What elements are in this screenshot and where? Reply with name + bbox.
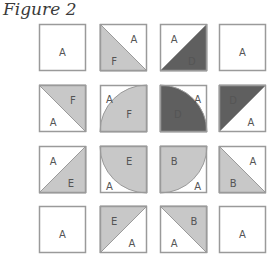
patch-label: A [171, 238, 178, 249]
patch-label: A [50, 156, 57, 167]
quilt-square-r0-c3: A [219, 24, 266, 71]
patch-label: B [190, 216, 197, 227]
patch-label: A [59, 229, 66, 240]
quilt-square-r3-c1: EA [100, 206, 147, 253]
patch-label: E [111, 216, 117, 227]
patch-label: D [174, 109, 182, 120]
patch-label: D [188, 56, 196, 67]
quilt-square-r0-c2: AD [160, 24, 207, 71]
quilt-square-r0-c0: A [39, 24, 86, 71]
quilt-square-r3-c2: BA [160, 206, 207, 253]
patch-label: E [126, 156, 132, 167]
quilt-square-r2-c3: AB [219, 146, 266, 193]
patch-label: A [106, 181, 113, 192]
patch-label: F [126, 109, 132, 120]
patch-label: D [229, 95, 237, 106]
patch-label: E [68, 178, 74, 189]
quilt-square-r2-c2: BA [160, 146, 207, 193]
quilt-square-r3-c0: A [39, 206, 86, 253]
quilt-square-r1-c2: DA [160, 85, 207, 132]
quilt-square-r1-c0: FA [39, 85, 86, 132]
patch-label: A [171, 34, 178, 45]
patch-label: B [171, 156, 178, 167]
patch-label: A [239, 229, 246, 240]
quilt-block-diagram: AAFADAFAAFDADAAEEABAABAEABAA [0, 0, 278, 274]
quilt-square-r2-c0: AE [39, 146, 86, 193]
patch-label: A [249, 156, 256, 167]
patch-label: A [239, 47, 246, 58]
patch-label: B [230, 178, 237, 189]
quilt-square-r1-c1: AF [100, 85, 147, 132]
patch-label: A [129, 238, 136, 249]
patch-label: F [111, 56, 117, 67]
quilt-square-r2-c1: EA [100, 146, 147, 193]
patch-label: A [130, 34, 137, 45]
patch-label: A [248, 117, 255, 128]
quilt-square-r3-c3: A [219, 206, 266, 253]
patch-label: F [70, 95, 76, 106]
patch-label: A [59, 47, 66, 58]
patch-label: A [106, 94, 113, 105]
patch-label: A [194, 94, 201, 105]
quilt-square-r0-c1: AF [100, 24, 147, 71]
patch-label: A [194, 181, 201, 192]
quilt-square-r1-c3: DA [219, 85, 266, 132]
patch-label: A [50, 117, 57, 128]
